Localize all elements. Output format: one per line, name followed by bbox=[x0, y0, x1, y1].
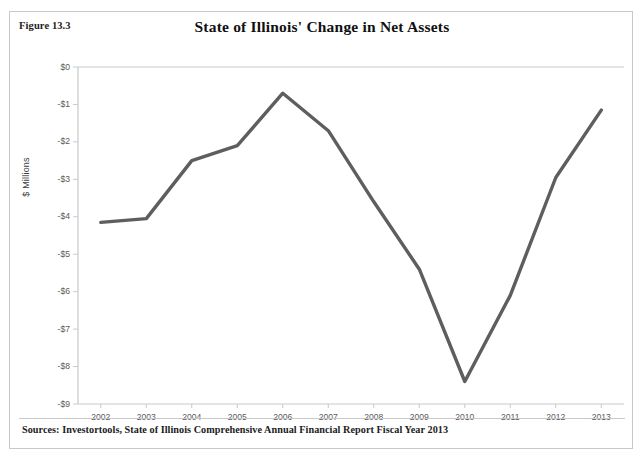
chart-plot-area: $ Millions $0-$1-$2-$3-$4-$5-$6-$7-$8-$9… bbox=[10, 12, 634, 418]
x-tick-label: 2002 bbox=[78, 412, 124, 422]
x-tick-label: 2009 bbox=[396, 412, 442, 422]
x-tick-label: 2010 bbox=[442, 412, 488, 422]
line-chart-svg bbox=[10, 12, 634, 418]
tick-marks bbox=[73, 67, 601, 408]
x-tick-label: 2013 bbox=[578, 412, 624, 422]
x-tick-label: 2012 bbox=[533, 412, 579, 422]
y-tick-label: -$6 bbox=[36, 286, 70, 296]
x-tick-label: 2003 bbox=[123, 412, 169, 422]
y-tick-label: -$2 bbox=[36, 136, 70, 146]
figure-container: Figure 13.3 State of Illinois' Change in… bbox=[9, 11, 633, 449]
y-tick-label: -$8 bbox=[36, 361, 70, 371]
x-tick-label: 2011 bbox=[487, 412, 533, 422]
sources-note: Sources: Investortools, State of Illinoi… bbox=[22, 424, 448, 435]
x-tick-label: 2007 bbox=[305, 412, 351, 422]
y-tick-label: -$7 bbox=[36, 324, 70, 334]
x-tick-label: 2008 bbox=[351, 412, 397, 422]
x-tick-label: 2004 bbox=[169, 412, 215, 422]
data-series-line bbox=[101, 93, 602, 381]
y-tick-label: -$4 bbox=[36, 211, 70, 221]
y-tick-label: -$5 bbox=[36, 249, 70, 259]
y-tick-label: -$9 bbox=[36, 399, 70, 409]
axis-lines bbox=[78, 67, 624, 404]
y-tick-label: $0 bbox=[36, 62, 70, 72]
y-tick-label: -$1 bbox=[36, 99, 70, 109]
x-tick-label: 2005 bbox=[214, 412, 260, 422]
footer-divider bbox=[19, 418, 625, 419]
y-tick-label: -$3 bbox=[36, 174, 70, 184]
x-tick-label: 2006 bbox=[260, 412, 306, 422]
